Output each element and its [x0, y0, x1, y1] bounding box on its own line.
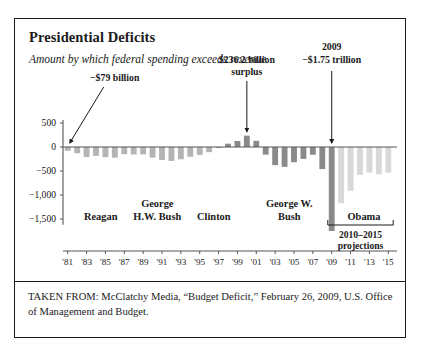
bar	[282, 147, 288, 167]
annotation-deficit-2009: −$1.75 trillion	[302, 54, 361, 65]
x-tick-label: '07	[307, 257, 318, 267]
x-tick-label: '97	[213, 257, 224, 267]
bar	[74, 147, 80, 153]
chart-frame: Presidential Deficits Amount by which fe…	[14, 18, 406, 338]
x-tick-label: '87	[119, 257, 130, 267]
bar	[150, 147, 156, 158]
bar	[367, 147, 373, 173]
x-tick-label: '93	[175, 257, 186, 267]
x-tick-label: '03	[270, 257, 281, 267]
annotation-deficit-2009: 2009	[322, 41, 342, 52]
bar	[235, 141, 241, 147]
bar	[329, 147, 335, 231]
bar	[178, 147, 184, 159]
bar	[263, 147, 269, 155]
y-tick-label: −500	[36, 165, 56, 176]
bar	[93, 147, 99, 156]
x-tick-label: '13	[364, 257, 375, 267]
source-divider	[15, 281, 405, 282]
bar	[206, 147, 212, 152]
bar	[112, 147, 118, 158]
president-label: George	[141, 198, 174, 209]
president-label: George W.	[266, 198, 313, 209]
x-tick-label: '83	[81, 257, 92, 267]
bar	[65, 147, 71, 151]
bar	[169, 147, 175, 161]
source-note: TAKEN FROM: McClatchy Media, “Budget Def…	[28, 290, 396, 319]
x-tick-label: '05	[289, 257, 300, 267]
bar	[187, 147, 193, 157]
bar	[131, 147, 137, 154]
bar	[84, 147, 90, 157]
annotation-surplus-2000: $236.2 billion	[219, 54, 276, 65]
president-label: Reagan	[84, 211, 118, 222]
x-tick-label: '81	[62, 257, 73, 267]
bar	[253, 141, 259, 147]
projection-note: 2010–2015	[339, 229, 382, 240]
bar	[140, 147, 146, 154]
x-tick-label: '09	[326, 257, 337, 267]
annotation-arrow-1981	[70, 87, 104, 143]
annotation-surplus-2000: surplus	[231, 66, 262, 77]
bar	[159, 147, 165, 160]
bar	[357, 147, 363, 175]
bar	[385, 147, 391, 173]
president-label: Bush	[278, 211, 301, 222]
bar	[197, 147, 203, 155]
bar	[301, 147, 307, 159]
annotation-deficit-1981: −$79 billion	[90, 72, 140, 83]
y-tick-label: −1,000	[29, 189, 56, 200]
bar	[310, 147, 316, 155]
bar	[376, 147, 382, 174]
y-tick-label: 500	[42, 117, 57, 128]
x-tick-label: '11	[345, 257, 356, 267]
bar	[121, 147, 127, 154]
y-tick-label: 0	[51, 141, 56, 152]
x-tick-label: '89	[138, 257, 149, 267]
bar	[348, 147, 354, 191]
x-tick-label: '01	[251, 257, 262, 267]
bar	[103, 147, 109, 157]
x-tick-label: '95	[194, 257, 205, 267]
x-tick-label: '91	[157, 257, 168, 267]
chart-svg: 5000−500−1,000−1,500'81'83'85'87'89'91'9…	[15, 19, 407, 279]
y-tick-label: −1,500	[29, 213, 56, 224]
x-tick-label: '15	[383, 257, 394, 267]
x-tick-label: '99	[232, 257, 243, 267]
bar	[244, 136, 250, 147]
bar	[319, 147, 325, 169]
projection-note: projections	[338, 240, 384, 251]
president-label: Obama	[348, 211, 382, 222]
bar	[338, 147, 344, 203]
president-label: H.W. Bush	[133, 211, 181, 222]
x-tick-label: '85	[100, 257, 111, 267]
president-label: Clinton	[197, 211, 231, 222]
bar	[291, 147, 297, 162]
bar	[272, 147, 278, 165]
